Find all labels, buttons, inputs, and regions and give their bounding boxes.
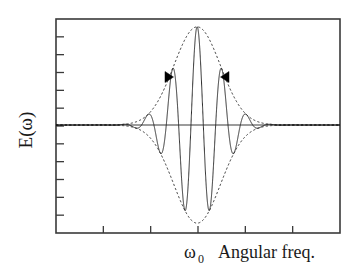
left-arrow-marker — [165, 72, 174, 83]
y-axis-label: E(ω) — [15, 112, 37, 149]
x-axis-label: Angular freq. — [218, 242, 315, 262]
plot-frame — [56, 19, 340, 233]
envelope-lower-curve — [56, 125, 340, 223]
y-axis-label-text: E(ω) — [15, 112, 37, 149]
x-axis-ticks — [103, 226, 292, 233]
right-arrow-marker — [221, 72, 230, 83]
x-axis-center-label: ω 0 — [184, 242, 204, 266]
wave-packet-plot: E(ω) ω 0 Angular freq. — [0, 0, 360, 273]
x-axis-label-text: Angular freq. — [218, 242, 315, 262]
envelope-upper-curve — [56, 27, 340, 125]
omega-zero-label: ω — [184, 242, 196, 262]
y-axis-ticks — [56, 37, 64, 215]
carrier-waveform — [56, 27, 340, 211]
figure-canvas: E(ω) ω 0 Angular freq. — [0, 0, 360, 273]
omega-zero-subscript: 0 — [198, 252, 204, 266]
